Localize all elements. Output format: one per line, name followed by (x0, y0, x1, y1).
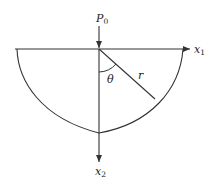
bowl-boundary (17, 49, 183, 133)
x1-label: x1 (194, 43, 205, 57)
half-space-diagram: P0 x1 x2 r θ (0, 0, 212, 179)
angle-arc (99, 64, 116, 72)
load-label: P0 (95, 12, 108, 26)
radius-label: r (138, 69, 144, 82)
x2-label: x2 (95, 165, 106, 179)
angle-label: θ (107, 73, 114, 86)
